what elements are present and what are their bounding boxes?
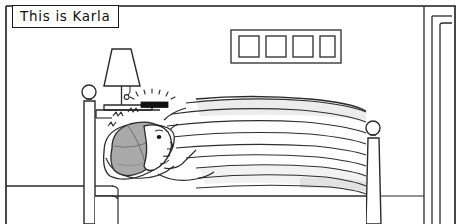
alarm-ring-rays [130,89,175,99]
wall-picture-frames [231,30,341,63]
caption-box: This is Karla [12,5,119,28]
table-lamp[interactable] [104,49,140,105]
caption-text: This is Karla [20,8,111,24]
karla-head [144,125,173,171]
comic-artwork [0,0,461,224]
bed-mattress [95,186,366,224]
bed-footboard [366,121,381,224]
comic-panel: This is Karla [0,0,461,224]
doorway[interactable] [424,6,452,224]
